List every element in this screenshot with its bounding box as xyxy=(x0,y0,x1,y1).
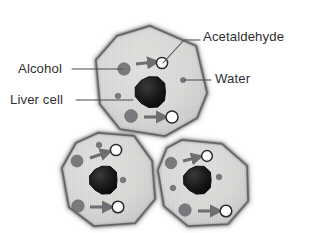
liver-cell-bottom-right xyxy=(158,140,248,226)
label-liver-cell: Liver cell xyxy=(10,92,63,107)
acetaldehyde-molecule-bl-1 xyxy=(110,144,121,155)
liver-cell-top xyxy=(96,26,207,136)
acetaldehyde-molecule-br-1 xyxy=(202,151,213,162)
label-water: Water xyxy=(215,71,251,86)
water-molecule-bl-1 xyxy=(96,142,102,148)
diagram-canvas: AcetaldehydeWaterAlcoholLiver cell xyxy=(0,0,312,233)
liver-cell-diagram: alcohol is broken down in liver cells xyxy=(0,0,312,233)
liver-cell-bottom-left xyxy=(62,133,155,226)
water-molecule-br-2 xyxy=(170,185,176,191)
alcohol-molecule-top-2 xyxy=(125,110,138,123)
acetaldehyde-molecule-bl-2 xyxy=(112,201,124,213)
label-alcohol: Alcohol xyxy=(18,61,62,76)
alcohol-molecule-br-2 xyxy=(179,204,191,216)
acetaldehyde-molecule-top-2 xyxy=(166,111,178,123)
alcohol-molecule-bl-1 xyxy=(71,155,83,167)
acetaldehyde-molecule-br-2 xyxy=(220,205,232,217)
conversion-arrow-top-1 xyxy=(136,62,155,64)
cells-layer xyxy=(62,26,248,226)
water-molecule-br-1 xyxy=(216,174,222,180)
water-molecule-bl-2 xyxy=(120,177,126,183)
alcohol-molecule-br-1 xyxy=(165,157,177,169)
water-molecule-top-2 xyxy=(115,93,121,99)
alcohol-molecule-bl-2 xyxy=(72,200,84,212)
label-acetaldehyde: Acetaldehyde xyxy=(203,29,284,44)
